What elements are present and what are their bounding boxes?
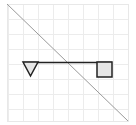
diagram-canvas <box>0 0 136 125</box>
square-marker <box>97 62 112 77</box>
triangle-marker <box>23 62 38 76</box>
